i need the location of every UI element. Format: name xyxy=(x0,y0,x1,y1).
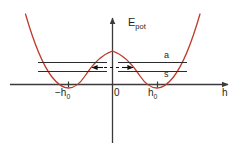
symmetric-level-label: s xyxy=(164,70,169,79)
tick-label-h0: h0 xyxy=(148,88,157,98)
tick-label-minus-h0: −h0 xyxy=(55,88,70,98)
antisymmetric-level-label: a xyxy=(164,51,169,60)
tick-label-minus-h0-subscript: 0 xyxy=(66,93,70,100)
tick-label-minus-h0-text: −h xyxy=(55,87,66,98)
y-axis-label-subscript: pot xyxy=(135,22,145,31)
origin-label: 0 xyxy=(114,88,120,98)
y-axis-label: Epot xyxy=(128,17,146,28)
double-well-potential-figure: Epot h 0 −h0 h0 a s xyxy=(0,0,239,152)
x-axis-label: h xyxy=(222,88,228,98)
tick-label-h0-subscript: 0 xyxy=(154,93,158,100)
diagram-canvas xyxy=(0,0,239,152)
